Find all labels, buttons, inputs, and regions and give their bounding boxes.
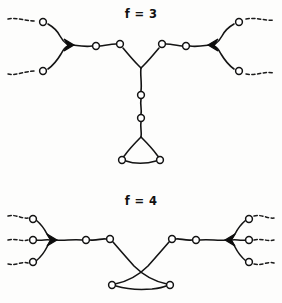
edge-f4-right-middle (232, 240, 246, 241)
dashed-edge-f4-right-lower (254, 263, 274, 265)
edge-f4-triangle-base (116, 286, 166, 289)
node-f3-open-right-chain-b (159, 41, 166, 48)
edge-f3-stem-3 (141, 122, 142, 137)
node-f3-open-triangle-right (157, 157, 164, 164)
node-f3-open-triangle-left (119, 157, 126, 164)
node-f4-open-right-chain-b (169, 236, 176, 243)
node-f4-open-right-lower (246, 259, 253, 266)
node-f3-open-lower-right (236, 68, 243, 75)
node-f3-filled-left (64, 39, 74, 51)
edge-f3-stem-1 (141, 68, 142, 91)
node-f4-open-left-upper (30, 216, 37, 223)
node-f4-open-right-upper (246, 216, 253, 223)
node-f4-open-left-middle (30, 237, 37, 244)
node-f4-open-right-chain-a (193, 237, 200, 244)
dashed-edge-f4-right-middle (254, 239, 274, 240)
edge-f4-left-middle (36, 240, 50, 241)
edge-f3-left-chain-1 (73, 45, 92, 46)
figure-sheet: f = 3 (0, 0, 282, 303)
edge-f3-left-upper (48, 24, 68, 45)
dashed-edge-f3-lower-left (8, 71, 36, 74)
node-f4-open-right-middle (246, 237, 253, 244)
node-f3-open-stem-a (138, 92, 145, 99)
figure-f4: f = 4 (8, 194, 274, 289)
node-f3-open-lower-left (40, 68, 47, 75)
edge-f4-left-chain-2 (90, 239, 106, 240)
node-f4-open-left-lower (30, 259, 37, 266)
dashed-edge-f3-lower-right (246, 73, 274, 75)
node-f4-open-left-chain-b (107, 236, 114, 243)
edge-f3-triangle-right (141, 137, 160, 159)
dashed-edge-f4-right-upper (254, 216, 274, 219)
edge-f3-right-chain-2 (166, 44, 182, 46)
edge-f4-left-chain-1 (56, 240, 82, 241)
edge-f3-right-upper (214, 24, 234, 45)
node-f3-open-stem-b (138, 115, 145, 122)
edge-f4-right-chain-1 (200, 240, 226, 241)
figure-f3: f = 3 (8, 7, 274, 163)
node-f3-open-upper-left (40, 19, 47, 26)
dashed-edge-f4-left-middle (8, 239, 28, 240)
edge-f3-triangle-base (126, 161, 156, 163)
node-f4-open-triangle-left (109, 282, 116, 289)
node-f3-open-upper-right (236, 19, 243, 26)
edge-f3-right-to-center (141, 48, 159, 68)
dashed-edge-f3-upper-right (246, 18, 274, 20)
node-f3-filled-right (208, 39, 218, 51)
dashed-edge-f3-upper-left (8, 18, 36, 21)
edge-f3-stem-2 (141, 99, 142, 114)
graph-diagram-canvas: f = 3 (0, 0, 282, 303)
dashed-edge-f4-left-lower (8, 263, 28, 265)
node-f3-open-right-chain-a (183, 43, 190, 50)
figure-f3-label: f = 3 (125, 7, 158, 21)
node-f4-open-left-chain-a (83, 237, 90, 244)
node-f4-open-triangle-right (167, 282, 174, 289)
node-f3-open-left-chain-b (117, 41, 124, 48)
edge-f4-cross-right-to-left (115, 242, 169, 284)
node-f3-open-left-chain-a (93, 43, 100, 50)
dashed-edge-f4-left-upper (8, 216, 28, 219)
edge-f3-left-to-center (123, 48, 141, 68)
edge-f4-right-chain-2 (176, 239, 192, 240)
edge-f4-cross-left-to-right (113, 242, 167, 284)
edge-f3-triangle-left (122, 137, 141, 159)
figure-f4-label: f = 4 (125, 194, 158, 208)
edge-f3-left-chain-2 (100, 44, 116, 46)
edge-f3-right-chain-1 (190, 45, 209, 46)
